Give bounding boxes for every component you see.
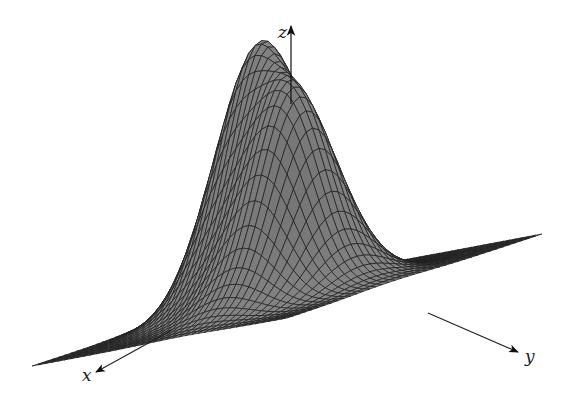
- z-axis-label: z: [277, 22, 288, 42]
- surface-plot: z x y: [0, 0, 577, 403]
- surface-mesh: [32, 41, 542, 366]
- y-axis: y: [428, 313, 535, 366]
- x-axis-label: x: [82, 365, 92, 385]
- y-axis-label: y: [524, 346, 535, 366]
